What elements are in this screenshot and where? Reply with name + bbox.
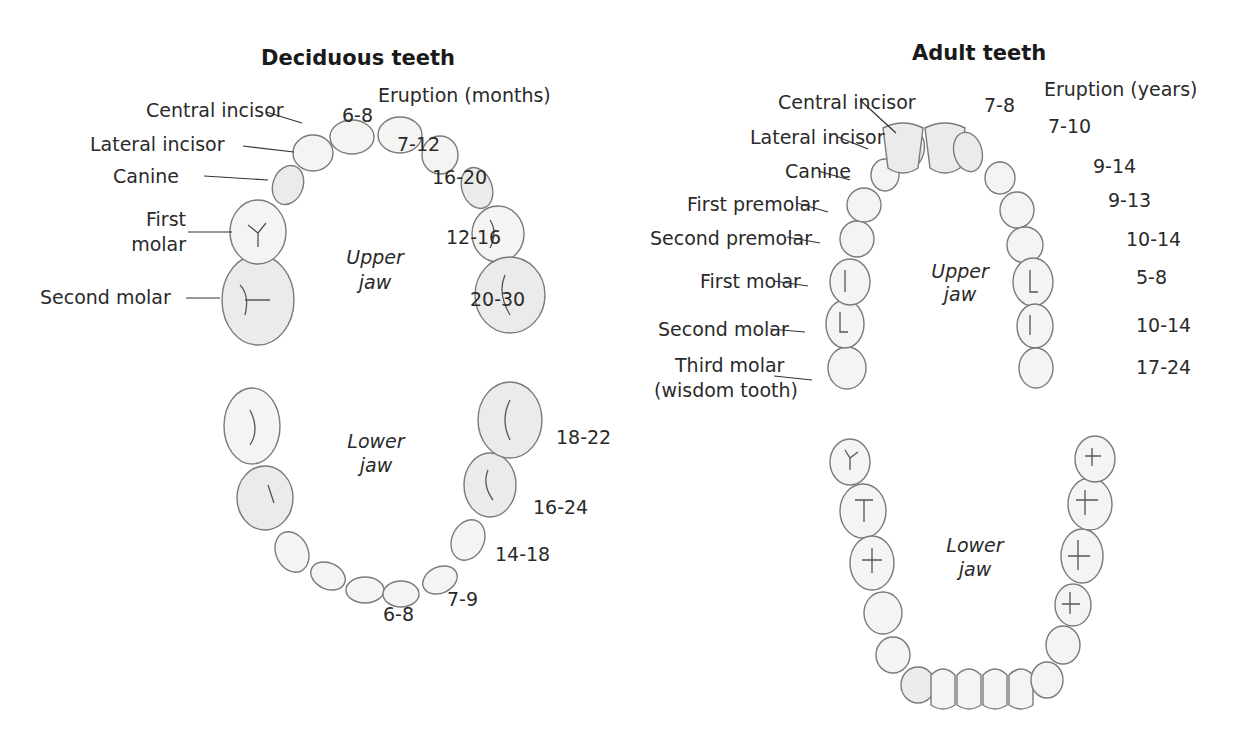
- deciduous-lower-eruption-first-molar: 16-24: [533, 498, 588, 517]
- adult-title: Adult teeth: [912, 43, 1046, 64]
- tooth-icon: [876, 637, 910, 673]
- tooth-icon: [269, 526, 316, 578]
- adult-eruption-header: Eruption (years): [1044, 80, 1197, 99]
- tooth-icon: [464, 453, 516, 517]
- adult-upper-jaw-label-2: jaw: [930, 285, 990, 304]
- tooth-icon: [840, 221, 874, 257]
- deciduous-lower-eruption-lateral: 7-9: [447, 590, 478, 609]
- deciduous-lower-jaw-label-2: jaw: [336, 456, 416, 475]
- adult-upper-eruption-first-premolar: 9-13: [1108, 191, 1151, 210]
- tooth-icon: [1000, 192, 1034, 228]
- adult-label-second-premolar: Second premolar: [650, 229, 812, 248]
- deciduous-lower-eruption-canine: 14-18: [495, 545, 550, 564]
- tooth-icon: [840, 484, 886, 538]
- adult-label-first-molar: First molar: [700, 272, 801, 291]
- tooth-icon: [1019, 348, 1053, 388]
- tooth-icon: [1068, 478, 1112, 530]
- tooth-icon: [445, 514, 492, 566]
- deciduous-upper-eruption-central: 6-8: [342, 106, 373, 125]
- tooth-icon: [1007, 227, 1043, 263]
- tooth-icon: [1013, 258, 1053, 306]
- tooth-icon: [883, 123, 923, 173]
- tooth-icon: [847, 188, 881, 222]
- tooth-icon: [1055, 584, 1091, 626]
- tooth-icon: [828, 347, 866, 389]
- adult-label-second-molar: Second molar: [658, 320, 789, 339]
- tooth-icon: [346, 577, 384, 603]
- adult-lower-jaw-label: Lower: [935, 536, 1015, 555]
- adult-upper-eruption-first-molar: 5-8: [1136, 268, 1167, 287]
- adult-upper-eruption-third-molar: 17-24: [1136, 358, 1191, 377]
- adult-upper-eruption-lateral: 7-10: [1048, 117, 1091, 136]
- tooth-icon: [931, 669, 955, 709]
- tooth-icon: [983, 669, 1007, 709]
- adult-upper-eruption-canine: 9-14: [1093, 157, 1136, 176]
- tooth-icon: [864, 592, 902, 634]
- deciduous-upper-eruption-second-molar: 20-30: [470, 290, 525, 309]
- adult-upper-arch: [826, 123, 1053, 389]
- tooth-icon: [1017, 304, 1053, 348]
- adult-label-lateral-incisor: Lateral incisor: [750, 128, 885, 147]
- deciduous-eruption-header: Eruption (months): [378, 86, 551, 105]
- tooth-icon: [1046, 626, 1080, 664]
- adult-upper-jaw-label: Upper: [930, 262, 990, 281]
- deciduous-label-central-incisor: Central incisor: [146, 101, 284, 120]
- adult-lower-jaw-label-2: jaw: [935, 560, 1015, 579]
- tooth-icon: [1075, 436, 1115, 482]
- deciduous-label-second-molar: Second molar: [40, 288, 171, 307]
- tooth-icon: [826, 300, 864, 348]
- deciduous-lower-eruption-central: 6-8: [383, 605, 414, 624]
- adult-label-third-molar-line1: Third molar: [675, 356, 772, 375]
- deciduous-upper-jaw-label-2: jaw: [345, 273, 405, 292]
- adult-label-third-molar-line2: (wisdom tooth): [654, 381, 798, 400]
- tooth-icon: [901, 667, 935, 703]
- deciduous-upper-eruption-canine: 16-20: [432, 168, 487, 187]
- tooth-icon: [830, 259, 870, 305]
- deciduous-label-first-molar-line1: First: [134, 210, 186, 229]
- deciduous-title: Deciduous teeth: [261, 48, 455, 69]
- adult-upper-eruption-second-molar: 10-14: [1136, 316, 1191, 335]
- adult-label-first-premolar: First premolar: [687, 195, 819, 214]
- tooth-icon: [478, 382, 542, 458]
- deciduous-upper-eruption-lateral: 7-12: [397, 135, 440, 154]
- tooth-icon: [306, 557, 350, 596]
- deciduous-upper-eruption-first-molar: 12-16: [446, 228, 501, 247]
- adult-label-central-incisor: Central incisor: [778, 93, 916, 112]
- tooth-icon: [293, 135, 333, 171]
- deciduous-label-lateral-incisor: Lateral incisor: [90, 135, 225, 154]
- tooth-icon: [1009, 669, 1033, 709]
- deciduous-upper-jaw-label: Upper: [345, 248, 405, 267]
- adult-upper-eruption-central: 7-8: [984, 96, 1015, 115]
- tooth-icon: [957, 669, 981, 709]
- tooth-icon: [985, 162, 1015, 194]
- adult-upper-eruption-second-premolar: 10-14: [1126, 230, 1181, 249]
- deciduous-lower-arch: [224, 382, 542, 607]
- tooth-icon: [224, 388, 280, 464]
- deciduous-label-first-molar-line2: molar: [112, 235, 186, 254]
- tooth-icon: [237, 466, 293, 530]
- deciduous-lower-jaw-label: Lower: [336, 432, 416, 451]
- adult-label-canine: Canine: [785, 162, 851, 181]
- deciduous-label-canine: Canine: [113, 167, 179, 186]
- deciduous-lower-eruption-second-molar: 18-22: [556, 428, 611, 447]
- tooth-icon: [1031, 662, 1063, 698]
